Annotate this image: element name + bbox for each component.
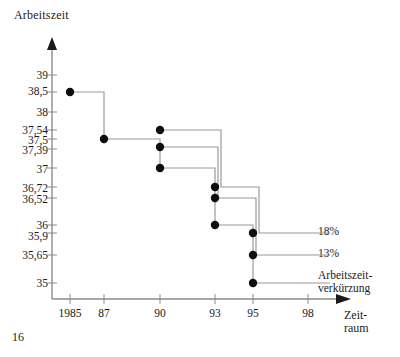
data-point-90-37-39 [156, 143, 164, 151]
data-point-90-37 [156, 164, 164, 172]
data-point-90-37-54 [156, 126, 164, 134]
axis-lines [47, 37, 351, 304]
data-point-93-36 [211, 221, 219, 229]
data-point-87-37-5 [100, 135, 108, 143]
chart-figure: Arbeitszeit Zeit- raum 39 38,5 38 37,54 … [0, 0, 400, 357]
data-point-95-35 [249, 279, 257, 287]
series-arbeitszeitverkuerzung [70, 92, 330, 283]
chart-plot-area [0, 0, 400, 357]
data-point-95-35-65 [249, 251, 257, 259]
data-point-95-35-9 [249, 229, 257, 237]
series-13-percent [160, 147, 330, 255]
x-axis-arrow-icon [336, 294, 351, 304]
series-18-percent [160, 130, 330, 233]
data-point-93-36-52 [211, 194, 219, 202]
data-point-1985-38-5 [66, 88, 74, 96]
data-point-93-36-72 [211, 183, 219, 191]
y-axis-arrow-icon [47, 37, 57, 50]
